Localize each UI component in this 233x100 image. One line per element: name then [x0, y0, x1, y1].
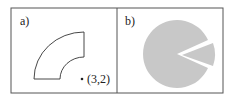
- panel-a: a) (3,2): [20, 14, 110, 86]
- panel-b: b): [125, 14, 215, 88]
- point-marker: [81, 78, 84, 81]
- panel-b-label: b): [125, 14, 135, 28]
- panel-a-label: a): [20, 14, 29, 28]
- annular-sector-shape: [34, 32, 84, 79]
- point-label: (3,2): [87, 72, 110, 86]
- figure: a) (3,2) b): [0, 0, 233, 100]
